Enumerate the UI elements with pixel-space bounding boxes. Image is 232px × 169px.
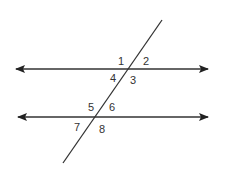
angle-label-8: 8 bbox=[99, 123, 105, 135]
angle-label-3: 3 bbox=[130, 74, 136, 86]
angle-label-2: 2 bbox=[143, 55, 149, 67]
angle-label-1: 1 bbox=[118, 55, 124, 67]
angle-label-6: 6 bbox=[109, 101, 115, 113]
parallel-lines-transversal-diagram: 1 2 4 3 5 6 7 8 bbox=[0, 0, 232, 169]
angle-label-7: 7 bbox=[74, 121, 80, 133]
angle-label-5: 5 bbox=[88, 101, 94, 113]
angle-label-4: 4 bbox=[110, 72, 116, 84]
transversal-line bbox=[63, 20, 162, 163]
